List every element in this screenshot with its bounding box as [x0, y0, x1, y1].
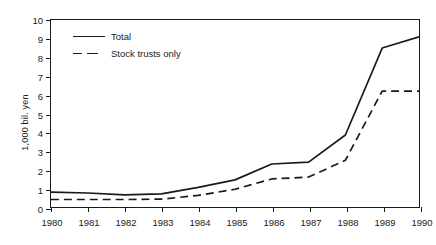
- y-axis-tick-label: 1: [38, 184, 43, 197]
- x-axis-tick: 1980: [51, 207, 52, 212]
- y-axis-tick-label: 2: [38, 165, 43, 178]
- legend-label-stock-trusts-only: Stock trusts only: [111, 48, 181, 60]
- x-axis-tick: 1989: [384, 207, 385, 212]
- y-axis-tick-label: 10: [32, 14, 43, 27]
- x-axis-tick: 1985: [236, 207, 237, 212]
- y-axis-tick-label: 9: [38, 33, 43, 46]
- y-axis-tick-label: 3: [38, 146, 43, 159]
- y-axis-tick: 9: [46, 39, 51, 40]
- x-axis-tick-label: 1989: [374, 216, 395, 229]
- plot-area: 012345678910 198019811982198319841985198…: [50, 19, 420, 208]
- y-axis-tick: 10: [46, 20, 51, 21]
- x-axis-tick-label: 1990: [411, 216, 432, 229]
- x-axis-tick: 1984: [199, 207, 200, 212]
- y-axis-tick-label: 6: [38, 90, 43, 103]
- y-axis-tick: 6: [46, 96, 51, 97]
- x-axis-tick-label: 1988: [337, 216, 358, 229]
- x-axis-tick: 1983: [162, 207, 163, 212]
- x-axis-tick-label: 1987: [300, 216, 321, 229]
- x-axis-tick: 1986: [273, 207, 274, 212]
- y-axis-tick: 8: [46, 58, 51, 59]
- y-axis-tick-label: 0: [38, 203, 43, 216]
- legend-item-stock-trusts-only: Stock trusts only: [73, 45, 181, 62]
- x-axis-tick: 1988: [347, 207, 348, 212]
- x-axis-tick-label: 1985: [226, 216, 247, 229]
- y-axis-tick-label: 8: [38, 52, 43, 65]
- y-axis-tick-label: 5: [38, 109, 43, 122]
- y-axis-tick: 7: [46, 77, 51, 78]
- chart-figure: 1,000 bil. yen 012345678910 198019811982…: [0, 0, 436, 245]
- y-axis-tick: 4: [46, 133, 51, 134]
- x-axis-tick-label: 1981: [78, 216, 99, 229]
- chart-legend: Total Stock trusts only: [73, 28, 181, 62]
- x-axis-tick: 1987: [310, 207, 311, 212]
- x-axis-tick: 1990: [421, 207, 422, 212]
- y-axis-tick: 5: [46, 115, 51, 116]
- x-axis-tick: 1981: [88, 207, 89, 212]
- x-axis-tick-label: 1986: [263, 216, 284, 229]
- legend-label-total: Total: [111, 31, 131, 43]
- x-axis-tick-label: 1983: [152, 216, 173, 229]
- x-axis-tick-label: 1980: [41, 216, 62, 229]
- legend-item-total: Total: [73, 28, 181, 45]
- x-axis-tick-label: 1982: [115, 216, 136, 229]
- y-axis-tick-label: 4: [38, 127, 43, 140]
- legend-swatch-solid-line-icon: [73, 32, 105, 42]
- y-axis-tick-label: 7: [38, 71, 43, 84]
- y-axis-tick: 1: [46, 190, 51, 191]
- x-axis-tick-label: 1984: [189, 216, 210, 229]
- legend-swatch-dashed-line-icon: [73, 49, 105, 59]
- y-axis-title: 1,000 bil. yen: [16, 0, 34, 245]
- y-axis-tick: 3: [46, 152, 51, 153]
- y-axis-tick: 2: [46, 171, 51, 172]
- series-line-stock-trusts-only: [51, 91, 419, 199]
- x-axis-tick: 1982: [125, 207, 126, 212]
